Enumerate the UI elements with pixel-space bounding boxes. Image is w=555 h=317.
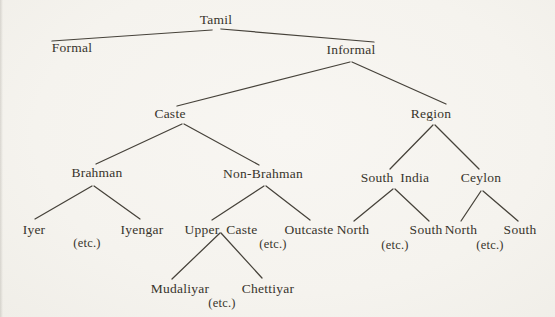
edge-brahman--iyengar — [94, 186, 140, 219]
edge-region--ceylon — [435, 125, 479, 169]
edge-upper-caste--chettiyar — [221, 233, 262, 278]
edge-tamil--informal — [221, 29, 374, 42]
tree-node-north-ceylon: North — [445, 223, 478, 237]
edge-region--south-india — [390, 125, 433, 169]
tree-diagram: TamilFormalInformalCasteRegionBrahmanNon… — [0, 0, 555, 317]
edge-ceylon--north-ceylon — [461, 191, 481, 221]
tree-node-etc-upper-caste: (etc.) — [208, 296, 236, 310]
tree-node-north-south-india: North — [337, 223, 370, 237]
tree-node-brahman: Brahman — [71, 166, 122, 180]
tree-node-non-brahman: Non-Brahman — [223, 167, 303, 181]
edge-caste--non-brahman — [184, 124, 259, 165]
tree-node-tamil: Tamil — [200, 13, 233, 27]
tree-node-iyer: Iyer — [23, 223, 46, 237]
tree-node-ceylon: Ceylon — [461, 171, 502, 185]
edge-south-india--south-south-india — [395, 189, 429, 221]
edge-upper-caste--mudaliyar — [172, 233, 220, 279]
edge-south-india--north-south-india — [354, 189, 393, 221]
tree-node-formal: Formal — [52, 41, 93, 55]
tree-node-chettiyar: Chettiyar — [242, 282, 295, 296]
tree-node-etc-south-india: (etc.) — [381, 238, 409, 252]
edge-informal--region — [352, 62, 446, 104]
tree-node-south-india: South India — [361, 171, 429, 185]
tree-node-region: Region — [411, 107, 452, 121]
tree-node-etc-ceylon: (etc.) — [476, 238, 504, 252]
tree-node-mudaliyar: Mudaliyar — [151, 282, 210, 296]
tree-node-informal: Informal — [326, 43, 375, 57]
tree-node-upper-caste: Upper Caste — [185, 223, 258, 237]
tree-node-etc-non-brahman: (etc.) — [259, 237, 287, 251]
edge-informal--caste — [177, 62, 350, 106]
tree-node-iyengar: Iyengar — [121, 223, 164, 237]
edge-non-brahman--outcaste — [266, 186, 310, 220]
edge-ceylon--south-ceylon — [483, 191, 518, 221]
edge-non-brahman--upper-caste — [212, 186, 264, 220]
tree-node-etc-brahman: (etc.) — [73, 236, 101, 250]
tree-node-outcaste: Outcaste — [284, 223, 333, 237]
tree-node-south-south-india: South — [410, 223, 443, 237]
tree-node-south-ceylon: South — [504, 223, 537, 237]
tree-node-caste: Caste — [154, 107, 185, 121]
edge-brahman--iyer — [35, 186, 92, 219]
edge-caste--brahman — [96, 124, 182, 164]
